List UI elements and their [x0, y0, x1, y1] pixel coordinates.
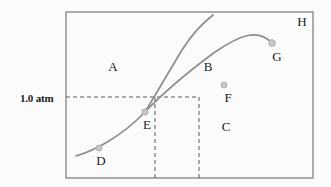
region-label-h: H: [297, 14, 306, 30]
point-marker-f: [221, 82, 227, 88]
point-marker-g: [269, 40, 276, 47]
point-markers: [96, 40, 275, 151]
region-label-a: A: [108, 59, 117, 75]
region-label-c: C: [222, 119, 231, 135]
point-label-g: G: [272, 49, 281, 65]
point-marker-d: [96, 145, 102, 151]
vaporization-curve: [76, 35, 272, 156]
pressure-tick-label: 1.0 atm: [20, 92, 53, 104]
phase-diagram-figure: 1.0 atm A B C H D E F G: [0, 0, 331, 187]
point-label-f: F: [224, 90, 231, 106]
region-label-b: B: [204, 59, 213, 75]
point-label-e: E: [143, 117, 151, 133]
point-label-d: D: [96, 153, 105, 169]
point-marker-e: [142, 109, 148, 115]
